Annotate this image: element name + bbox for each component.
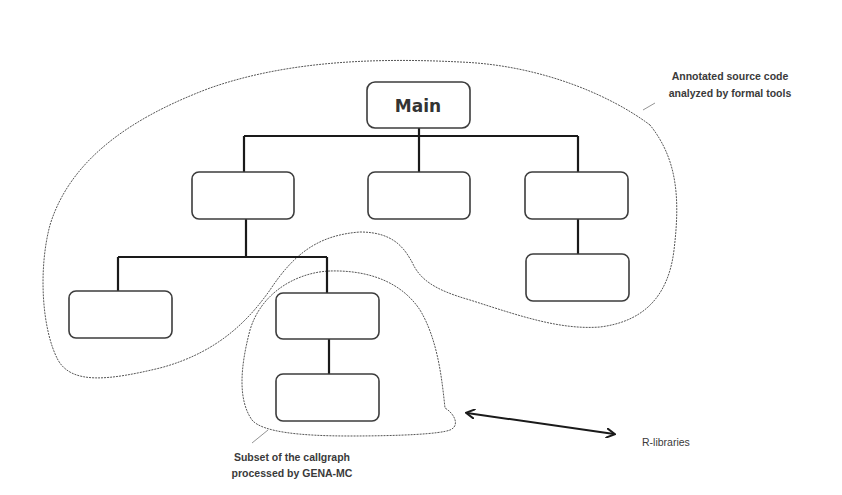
node-level1-right bbox=[525, 172, 628, 219]
inner-region-label-line2: processed by GENA-MC bbox=[232, 467, 353, 479]
node-level2-middle bbox=[276, 293, 379, 339]
outer-region-label-line1: Annotated source code bbox=[672, 70, 789, 82]
inner-region-pointer bbox=[252, 430, 268, 443]
node-level1-left bbox=[192, 172, 294, 219]
node-main: Main bbox=[367, 82, 470, 128]
node-level3 bbox=[276, 374, 379, 421]
outer-region-pointer bbox=[643, 103, 655, 110]
node-level2-right bbox=[526, 254, 629, 301]
node-level1-center bbox=[368, 172, 470, 219]
node-main-label: Main bbox=[395, 96, 441, 116]
inner-region-label-line1: Subset of the callgraph bbox=[234, 451, 350, 463]
outer-region-label-line2: analyzed by formal tools bbox=[669, 87, 792, 99]
node-level2-left bbox=[69, 291, 172, 338]
r-libraries-double-arrow bbox=[467, 413, 614, 434]
callgraph-diagram: Main Annotated source code analyzed by f… bbox=[0, 0, 842, 495]
r-libraries-label: R-libraries bbox=[642, 436, 690, 448]
